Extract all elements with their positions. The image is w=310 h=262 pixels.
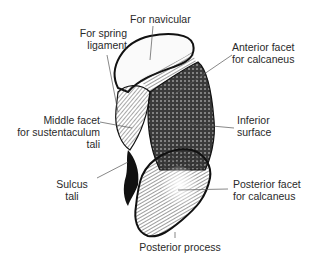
label-for-navicular: For navicular [130, 13, 191, 25]
label-middle-facet-line3: tali [0, 138, 100, 150]
middle-facet-shape [116, 86, 150, 150]
label-spring-line1: For spring [62, 27, 127, 39]
label-inferior-surface-line1: Inferior [237, 114, 270, 126]
label-posterior-facet-line1: Posterior facet [233, 178, 301, 190]
label-middle-facet-line1: Middle facet [0, 114, 100, 126]
label-spring-line2: ligament [62, 39, 127, 51]
label-anterior-facet-line2: for calcaneus [232, 53, 294, 65]
label-sulcus-line1: Sulcus [52, 178, 92, 190]
label-anterior-facet-line1: Anterior facet [232, 41, 294, 53]
label-posterior-process: Posterior process [130, 241, 230, 253]
label-posterior-facet-line2: for calcaneus [233, 190, 295, 202]
label-inferior-surface-line2: surface [237, 126, 271, 138]
label-sulcus-line2: tali [52, 190, 92, 202]
label-middle-facet-line2: for sustentaculum [0, 126, 100, 138]
